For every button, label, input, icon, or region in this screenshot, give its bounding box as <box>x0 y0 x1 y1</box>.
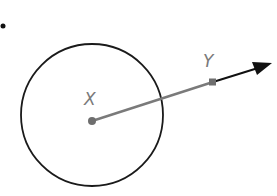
point-x <box>88 117 96 125</box>
bullet-dot <box>1 24 6 29</box>
segment-xy <box>92 82 213 121</box>
circle-centered-at-x <box>21 44 163 186</box>
point-y <box>209 79 216 86</box>
arrowhead-icon <box>252 62 272 75</box>
label-x: X <box>83 89 96 109</box>
ray-from-y <box>213 68 258 82</box>
geometry-diagram: X Y <box>0 0 277 196</box>
label-y: Y <box>203 51 215 71</box>
